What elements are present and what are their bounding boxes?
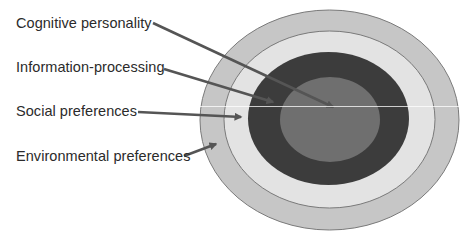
scan-artifact-line bbox=[200, 106, 469, 107]
label-information-processing: Information-processing bbox=[16, 60, 165, 75]
label-cognitive-personality: Cognitive personality bbox=[16, 16, 152, 31]
diagram-canvas bbox=[0, 0, 469, 247]
label-environmental-preferences: Environmental preferences bbox=[16, 149, 191, 164]
concentric-layers-diagram: Cognitive personality Information-proces… bbox=[0, 0, 469, 247]
label-social-preferences: Social preferences bbox=[16, 104, 137, 119]
